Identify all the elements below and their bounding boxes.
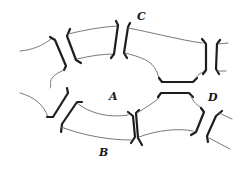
upper-middle-cell: [67, 21, 118, 63]
upper-right-cell: [124, 23, 206, 82]
cell-diagram: A B C D: [0, 0, 243, 170]
lower-left-cell: [20, 88, 68, 117]
upper-left-cell: [20, 37, 66, 88]
lower-middle-cell: [61, 102, 135, 143]
cell-diagram-drawing: [0, 0, 243, 170]
far-right-upper-cell: [216, 40, 228, 74]
label-a: A: [109, 91, 118, 102]
label-b: B: [99, 147, 108, 158]
label-c: C: [137, 11, 146, 22]
lower-right-cell: [136, 93, 204, 145]
label-d: D: [208, 92, 218, 103]
far-right-lower-cell: [207, 111, 232, 149]
